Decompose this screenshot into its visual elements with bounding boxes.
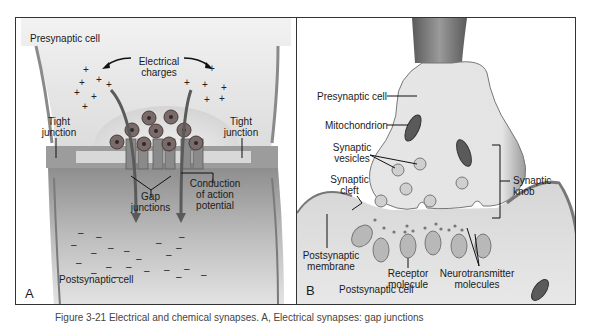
svg-text:+: + [82,101,88,112]
svg-text:–: – [179,231,185,242]
svg-text:–: – [136,253,142,264]
panel-letter-a: A [25,286,34,301]
svg-text:+: + [106,79,112,90]
svg-text:–: – [106,261,112,272]
svg-text:–: – [108,242,114,253]
svg-text:–: – [76,257,82,268]
svg-text:–: – [91,247,97,258]
svg-text:+: + [79,77,85,88]
label-synaptic-cleft: Synaptic cleft [327,174,372,196]
svg-text:–: – [164,264,170,275]
svg-text:+: + [219,93,225,104]
label-postsynaptic-membrane: Postsynaptic membrane [300,250,362,272]
label-tight-junction-left: Tight junction [39,116,79,138]
panel-letter-b: B [306,283,315,298]
svg-text:+: + [91,91,97,102]
svg-text:–: – [126,261,132,272]
svg-text:–: – [124,245,130,256]
axon-shape [412,18,467,63]
svg-text:+: + [204,94,210,105]
figure-caption: Figure 3-21 Electrical and chemical syna… [55,312,424,323]
svg-text:–: – [144,265,150,276]
svg-text:+: + [221,82,227,93]
label-mitochondrion: Mitochondrion [325,120,388,131]
label-conduction-of-action-potential: Conduction of action potential [186,178,244,211]
label-presynaptic-cell-a: Presynaptic cell [30,33,100,44]
label-neurotransmitter-molecules: Neurotransmitter molecules [437,268,517,290]
synaptic-knob-shape [370,62,526,210]
svg-text:+: + [83,64,89,75]
svg-text:–: – [176,271,182,282]
panel-b-chemical-synapse: Presynaptic cell Mitochondrion Synaptic … [296,17,576,305]
svg-text:+: + [74,87,80,98]
svg-text:+: + [209,63,215,74]
label-tight-junction-right: Tight junction [221,116,261,138]
svg-text:+: + [184,77,190,88]
svg-text:+: + [202,79,208,90]
svg-text:–: – [166,249,172,260]
svg-text:–: – [201,269,207,280]
svg-text:–: – [176,242,182,253]
svg-text:+: + [96,74,102,85]
svg-text:–: – [78,227,84,238]
label-synaptic-knob: Synaptic knob [513,175,551,197]
label-synaptic-vesicles: Synaptic vesicles [327,142,377,164]
label-postsynaptic-cell-a: Postsynaptic cell [59,274,133,285]
label-presynaptic-cell-b: Presynaptic cell [317,91,387,102]
label-electrical-charges: Electrical charges [129,56,189,78]
panel-a-electrical-synapse: ++++ +++ ++++ ++ –––– –––– –––– –––– –––… [15,17,297,305]
svg-text:–: – [96,231,102,242]
svg-text:–: – [71,239,77,250]
svg-text:–: – [156,237,162,248]
label-gap-junctions: Gap junctions [128,191,173,213]
svg-text:–: – [184,263,190,274]
label-postsynaptic-cell-b: Postsynaptic cell [339,284,413,295]
